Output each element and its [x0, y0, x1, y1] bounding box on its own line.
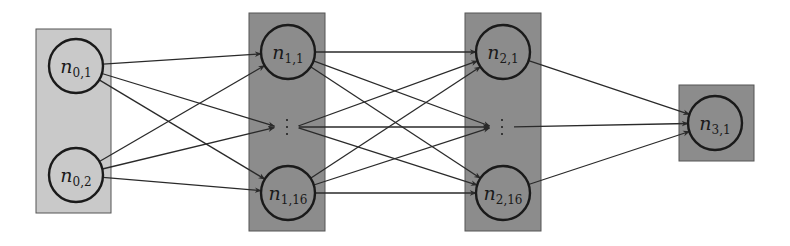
edge-n1_16-to-n2_dots	[314, 128, 490, 185]
ellipsis-dot	[286, 126, 288, 128]
diagram-canvas	[0, 0, 790, 246]
edge-n1_1-to-n2_dots	[314, 61, 490, 126]
edge-n0_1-to-n1_1	[103, 54, 261, 64]
edges	[99, 52, 689, 193]
edge-n0_2-to-n1_16	[103, 177, 261, 190]
ellipsis-n2_dots	[501, 119, 504, 140]
ellipsis-dot	[501, 119, 503, 121]
ellipsis-dot	[501, 126, 503, 128]
ellipsis-n1_dots	[286, 119, 289, 140]
ellipsis-dot	[501, 133, 503, 135]
edge-n2_1-to-n3_1	[529, 61, 690, 115]
ellipsis-dot	[286, 133, 288, 135]
edge-n2_16-to-n3_1	[529, 132, 690, 185]
neural-network-diagram: n0,1n0,2n1,1n1,16n2,1n2,16n3,1	[0, 0, 790, 246]
ellipsis-dot	[286, 119, 288, 121]
